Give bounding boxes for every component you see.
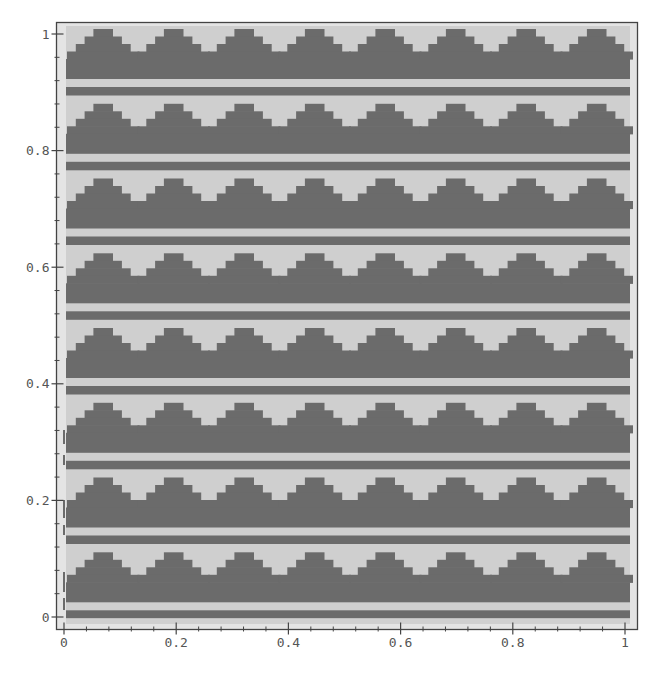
triangle-step <box>569 493 624 501</box>
x-tick-label: 0.4 <box>277 635 301 650</box>
triangle-step <box>516 179 536 187</box>
triangle-step <box>516 552 536 560</box>
triangle-step <box>437 410 474 418</box>
dark-stripe <box>66 536 630 545</box>
triangle-step <box>138 351 211 359</box>
triangle-step <box>217 194 272 202</box>
triangle-step <box>569 44 624 52</box>
triangle-step <box>226 560 263 568</box>
triangle-step <box>358 567 413 575</box>
triangle-step <box>67 126 140 134</box>
triangle-step <box>367 336 404 344</box>
triangle-step <box>67 425 140 433</box>
triangle-step <box>164 478 184 486</box>
triangle-step <box>508 485 545 493</box>
triangle-step <box>499 119 554 127</box>
triangle-step <box>93 552 113 560</box>
triangle-step <box>155 261 192 269</box>
triangle-step <box>85 37 122 45</box>
triangle-step <box>208 500 281 508</box>
triangle-step <box>420 276 493 284</box>
triangle-step <box>375 29 395 37</box>
triangle-step <box>367 485 404 493</box>
triangle-step <box>217 268 272 276</box>
triangle-step <box>587 29 607 37</box>
triangle-step <box>490 500 563 508</box>
triangle-step <box>358 44 413 52</box>
bottom-edge <box>66 618 630 624</box>
triangle-step <box>349 500 422 508</box>
triangle-step <box>490 52 563 60</box>
triangle-step <box>146 343 201 351</box>
triangle-step <box>420 52 493 60</box>
dark-stripe <box>66 610 630 619</box>
triangle-step <box>499 343 554 351</box>
triangle-step <box>138 276 211 284</box>
triangle-step <box>93 328 113 336</box>
triangle-step <box>305 253 325 261</box>
triangle-step <box>561 351 634 359</box>
triangle-step <box>437 485 474 493</box>
triangle-step <box>155 111 192 119</box>
triangle-step <box>499 493 554 501</box>
triangle-step <box>428 567 483 575</box>
triangle-step <box>516 478 536 486</box>
triangle-step <box>67 351 140 359</box>
triangle-step <box>67 575 140 583</box>
triangle-step <box>428 119 483 127</box>
triangle-step <box>76 567 131 575</box>
dark-bar <box>66 283 630 303</box>
triangle-step <box>208 425 281 433</box>
triangle-step <box>164 552 184 560</box>
triangle-step <box>367 111 404 119</box>
triangle-step <box>428 268 483 276</box>
triangle-step <box>279 425 352 433</box>
dark-bar <box>66 508 630 528</box>
triangle-step <box>234 253 254 261</box>
triangle-step <box>226 336 263 344</box>
triangle-step <box>561 276 634 284</box>
triangle-step <box>296 336 333 344</box>
triangle-step <box>349 276 422 284</box>
y-tick-label: 0.2 <box>26 493 49 508</box>
triangle-step <box>85 336 122 344</box>
triangle-step <box>76 418 131 426</box>
triangle-step <box>226 485 263 493</box>
triangle-step <box>446 104 466 112</box>
triangle-step <box>428 44 483 52</box>
triangle-step <box>164 179 184 187</box>
triangle-step <box>85 410 122 418</box>
triangle-step <box>296 261 333 269</box>
triangle-step <box>420 126 493 134</box>
triangle-step <box>208 52 281 60</box>
triangle-step <box>217 44 272 52</box>
triangle-step <box>490 425 563 433</box>
triangle-step <box>367 560 404 568</box>
triangle-step <box>76 493 131 501</box>
triangle-step <box>349 575 422 583</box>
triangle-step <box>217 119 272 127</box>
triangle-step <box>490 126 563 134</box>
x-tick-label: 0.2 <box>164 635 187 650</box>
triangle-step <box>287 119 342 127</box>
triangle-step <box>375 403 395 411</box>
triangle-step <box>296 111 333 119</box>
triangle-step <box>217 343 272 351</box>
triangle-step <box>349 201 422 209</box>
triangle-step <box>279 575 352 583</box>
triangle-step <box>561 52 634 60</box>
triangle-step <box>279 126 352 134</box>
triangle-step <box>287 343 342 351</box>
triangle-step <box>446 253 466 261</box>
triangle-step <box>67 201 140 209</box>
triangle-step <box>296 37 333 45</box>
triangle-step <box>155 186 192 194</box>
triangle-step <box>85 485 122 493</box>
triangle-step <box>508 186 545 194</box>
dark-bar <box>66 209 630 229</box>
triangle-step <box>67 52 140 60</box>
triangle-step <box>93 403 113 411</box>
triangle-step <box>305 403 325 411</box>
triangle-step <box>367 186 404 194</box>
triangle-step <box>428 194 483 202</box>
